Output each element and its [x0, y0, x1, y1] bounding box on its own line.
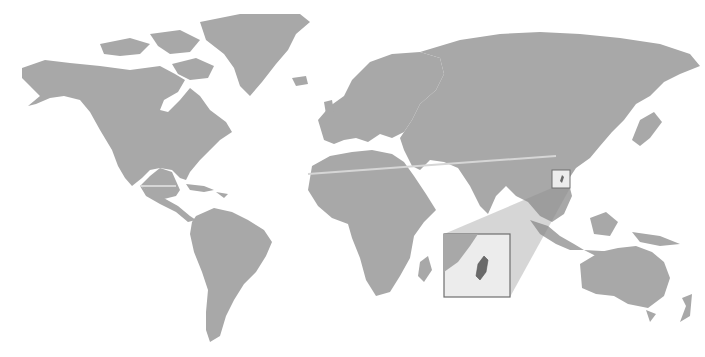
continent-north-america [22, 14, 310, 200]
taiwan-inset [444, 234, 510, 297]
continent-australia [580, 246, 692, 322]
map-canvas [0, 0, 705, 357]
continent-south-america [190, 208, 272, 342]
world-map [0, 0, 705, 357]
